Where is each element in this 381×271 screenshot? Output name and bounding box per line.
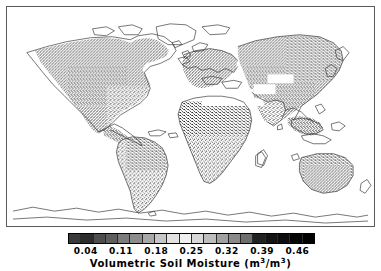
world-map-panel	[6, 6, 375, 227]
colorbar-tick-label-6: 0.46	[285, 246, 309, 257]
colorbar-title-text-a: Volumetric Soil Moisture (m	[90, 258, 261, 269]
colorbar-segment-14	[241, 234, 253, 243]
colorbar-segment-1	[81, 234, 93, 243]
colorbar-segment-2	[94, 234, 106, 243]
colorbar-segment-7	[155, 234, 167, 243]
colorbar-segment-13	[229, 234, 241, 243]
colorbar-tick-label-3: 0.25	[180, 246, 204, 257]
colorbar-segment-18	[290, 234, 302, 243]
colorbar-segment-10	[192, 234, 204, 243]
figure-canvas: 0.040.110.180.250.320.390.46 Volumetric …	[0, 0, 381, 271]
colorbar-segment-11	[204, 234, 216, 243]
colorbar-segment-0	[69, 234, 81, 243]
colorbar-tick-label-5: 0.39	[250, 246, 274, 257]
colorbar-gradient	[68, 233, 315, 244]
colorbar-segment-6	[143, 234, 155, 243]
colorbar: 0.040.110.180.250.320.390.46 Volumetric …	[0, 233, 381, 271]
colorbar-tick-label-4: 0.32	[215, 246, 239, 257]
colorbar-segment-17	[278, 234, 290, 243]
colorbar-segment-8	[167, 234, 179, 243]
colorbar-tick-label-0: 0.04	[74, 246, 98, 257]
colorbar-segment-4	[118, 234, 130, 243]
colorbar-segment-12	[217, 234, 229, 243]
colorbar-segment-15	[253, 234, 265, 243]
colorbar-title-text-b: )	[286, 258, 291, 269]
colorbar-segment-16	[266, 234, 278, 243]
colorbar-tick-labels: 0.040.110.180.250.320.390.46	[68, 246, 315, 258]
colorbar-title-text-mid: /m	[266, 258, 281, 269]
colorbar-axis-title: Volumetric Soil Moisture (m3/m3)	[0, 258, 381, 270]
colorbar-tick-label-2: 0.18	[144, 246, 168, 257]
colorbar-segment-3	[106, 234, 118, 243]
colorbar-segment-19	[303, 234, 314, 243]
colorbar-segment-9	[180, 234, 192, 243]
colorbar-tick-label-1: 0.11	[109, 246, 133, 257]
colorbar-segment-5	[130, 234, 142, 243]
world-map-graphic	[7, 7, 374, 226]
